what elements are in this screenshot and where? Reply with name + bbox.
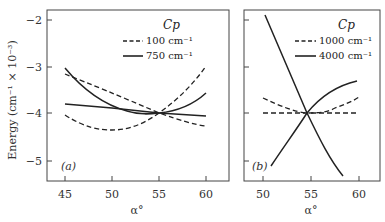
x-tick-label: 50 — [105, 188, 119, 201]
series-4000-rising — [271, 81, 357, 166]
panel-a-curves — [65, 66, 206, 130]
y-tick-label: −4 — [26, 107, 42, 120]
panel-tag: (a) — [61, 160, 76, 173]
series-100-upper — [65, 74, 206, 126]
series-1000-curved — [263, 97, 359, 113]
legend-label: 100 cm⁻¹ — [146, 35, 193, 46]
y-tick-label: −2 — [26, 14, 42, 27]
series-750-curved — [65, 68, 206, 114]
x-tick-label: 50 — [256, 188, 270, 201]
panel-tag: (b) — [252, 160, 268, 173]
x-tick-label: 60 — [199, 188, 213, 201]
x-axis-label: α° — [305, 204, 318, 217]
panel-b-y-ticks — [244, 20, 249, 161]
y-axis-label: Energy (cm⁻¹ × 10⁻³) — [6, 40, 19, 159]
x-tick-label: 60 — [352, 188, 366, 201]
panel-a: −2 −3 −4 −5 45 50 55 60 α° Energy (cm⁻¹ … — [6, 10, 229, 217]
y-tick-label: −5 — [26, 155, 42, 168]
legend-label: 4000 cm⁻¹ — [319, 50, 372, 61]
figure: −2 −3 −4 −5 45 50 55 60 α° Energy (cm⁻¹ … — [0, 0, 385, 222]
panel-b: 50 55 60 α° (b) Cp 1000 cm⁻¹ 4000 cm⁻¹ — [244, 10, 380, 217]
series-100-lower — [65, 66, 206, 130]
x-tick-label: 45 — [58, 188, 72, 201]
panel-b-x-ticks — [263, 176, 359, 181]
x-tick-label: 55 — [304, 188, 318, 201]
legend-title: Cp — [338, 18, 355, 32]
y-tick-label: −3 — [26, 61, 42, 74]
panel-a-x-ticks — [65, 176, 206, 181]
legend-label: 750 cm⁻¹ — [146, 50, 193, 61]
panel-a-frame — [47, 10, 229, 181]
legend-title: Cp — [163, 18, 180, 32]
legend-label: 1000 cm⁻¹ — [319, 35, 372, 46]
panel-b-legend: Cp 1000 cm⁻¹ 4000 cm⁻¹ — [295, 18, 372, 61]
x-tick-label: 55 — [152, 188, 166, 201]
x-axis-label: α° — [131, 204, 144, 217]
panel-a-y-ticks — [47, 20, 52, 161]
panel-a-legend: Cp 100 cm⁻¹ 750 cm⁻¹ — [123, 18, 193, 61]
